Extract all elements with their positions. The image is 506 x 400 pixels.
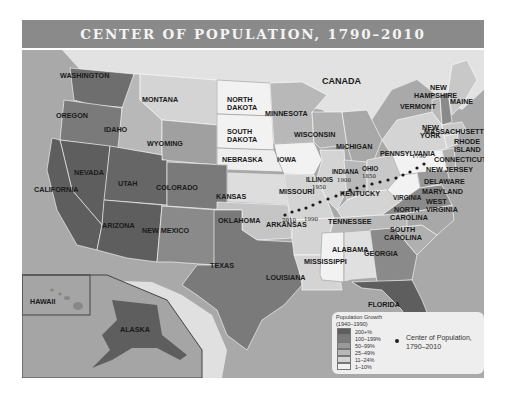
- label-pennsylvania: PENNSYLVANIA: [380, 149, 435, 158]
- label-louisiana: LOUISIANA: [266, 273, 306, 282]
- legend: Population Growth (1940–1990) 200+% 100–…: [332, 312, 484, 374]
- label-texas: TEXAS: [210, 261, 234, 270]
- state-new-mexico: [157, 206, 217, 265]
- center-of-population-dot-icon: [395, 339, 399, 343]
- year-1900: 1900: [337, 177, 351, 183]
- label-new-jersey: NEW JERSEY: [426, 165, 473, 174]
- map-title: CENTER OF POPULATION, 1790–2010: [22, 20, 484, 48]
- legend-row: 1–10%: [337, 363, 381, 370]
- label-kentucky: KENTUCKY: [340, 189, 380, 198]
- map-area: CANADA WASHINGTON OREGON IDAHO MONTANA W…: [22, 50, 484, 378]
- label-nevada: NEVADA: [74, 168, 104, 177]
- label-florida: FLORIDA: [368, 300, 400, 309]
- label-california: CALIFORNIA: [34, 185, 78, 194]
- label-oklahoma: OKLAHOMA: [218, 216, 260, 225]
- state-oregon: [60, 100, 122, 148]
- label-hawaii: HAWAII: [30, 297, 56, 306]
- swatch-25-49: [337, 349, 351, 356]
- year-1990: 1990: [304, 216, 318, 222]
- label-nebraska: NEBRASKA: [222, 155, 263, 164]
- label-arizona: ARIZONA: [102, 221, 135, 230]
- label-alabama: ALABAMA: [332, 245, 368, 254]
- label-ohio: OHIO: [362, 165, 378, 172]
- legend-swatches: 200+% 100–199% 50–99% 25–49% 11–24% 1–10…: [337, 328, 381, 370]
- label-montana: MONTANA: [142, 95, 178, 104]
- label-alaska: ALASKA: [120, 325, 150, 334]
- label-wisconsin: WISCONSIN: [294, 130, 336, 139]
- label-delaware: DELAWARE: [424, 177, 465, 186]
- label-missouri: MISSOURI: [279, 187, 315, 196]
- label-maryland: MARYLAND: [422, 187, 463, 196]
- label-kansas: KANSAS: [216, 192, 247, 201]
- label-idaho: IDAHO: [104, 125, 128, 134]
- label-virginia: VIRGINIA: [393, 194, 422, 201]
- legend-row: 25–49%: [337, 349, 381, 356]
- label-utah: UTAH: [118, 179, 137, 188]
- label-oregon: OREGON: [56, 111, 88, 120]
- year-2010: 2010: [282, 217, 296, 223]
- year-1950: 1950: [312, 184, 326, 190]
- swatch-200-plus: [337, 328, 351, 335]
- swatch-50-99: [337, 342, 351, 349]
- legend-title: Population Growth (1940–1990): [336, 314, 382, 327]
- label-iowa: IOWA: [277, 155, 296, 164]
- state-utah: [104, 146, 167, 205]
- label-vermont: VERMONT: [400, 102, 437, 111]
- state-hawaii: [73, 302, 83, 310]
- legend-row: 11–24%: [337, 356, 381, 363]
- swatch-100-199: [337, 335, 351, 342]
- label-mississippi: MISSISSIPPI: [304, 257, 347, 266]
- label-west-virginia: WESTVIRGINIA: [426, 197, 458, 214]
- label-colorado: COLORADO: [156, 183, 198, 192]
- label-new-mexico: NEW MEXICO: [142, 226, 190, 235]
- label-rhode-island: RHODEISLAND: [454, 137, 481, 154]
- label-wyoming: WYOMING: [147, 139, 183, 148]
- legend-row: 200+%: [337, 328, 381, 335]
- legend-center-label: Center of Population, 1790–2010: [406, 334, 472, 351]
- legend-row: 50–99%: [337, 342, 381, 349]
- swatch-11-24: [337, 356, 351, 363]
- state-michigan: [342, 110, 382, 165]
- label-illinois: ILLINOIS: [306, 176, 334, 183]
- label-michigan: MICHIGAN: [336, 142, 372, 151]
- swatch-1-10: [337, 363, 351, 370]
- label-washington: WASHINGTON: [60, 71, 109, 80]
- label-maine: MAINE: [450, 97, 473, 106]
- year-1850: 1850: [362, 173, 376, 179]
- legend-row: 100–199%: [337, 335, 381, 342]
- label-georgia: GEORGIA: [364, 249, 398, 258]
- label-tennessee: TENNESSEE: [328, 217, 372, 226]
- label-massachusetts: MASSACHUSETTS: [424, 127, 484, 136]
- year-1790: 1790: [412, 153, 426, 159]
- label-connecticut: CONNECTICUT: [434, 155, 484, 164]
- label-indiana: INDIANA: [332, 168, 359, 175]
- label-canada: CANADA: [322, 76, 361, 86]
- label-minnesota: MINNESOTA: [265, 109, 308, 118]
